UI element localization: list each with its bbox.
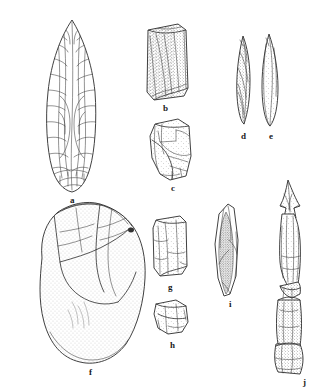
- artifact-g-rectangular-blade: [153, 216, 187, 276]
- artifact-label-i: i: [229, 300, 232, 309]
- artifact-label-g: g: [168, 283, 173, 292]
- artifact-b-rectangular-flake-block: [144, 22, 188, 102]
- artifact-f-large-core-chopper: [40, 202, 145, 363]
- artifact-label-d: d: [241, 132, 246, 141]
- artifact-plate: a b c d e f g h i j: [0, 0, 324, 389]
- artifact-label-f: f: [89, 368, 92, 377]
- artifact-label-b: b: [163, 104, 168, 113]
- artifact-label-j: j: [303, 378, 306, 387]
- artifact-label-c: c: [171, 184, 175, 193]
- artifact-h-small-flake-fragment: [154, 300, 188, 334]
- artifact-label-a: a: [70, 196, 75, 205]
- plate-drawing: [0, 0, 324, 389]
- artifact-label-h: h: [170, 341, 175, 350]
- artifact-label-e: e: [269, 132, 273, 141]
